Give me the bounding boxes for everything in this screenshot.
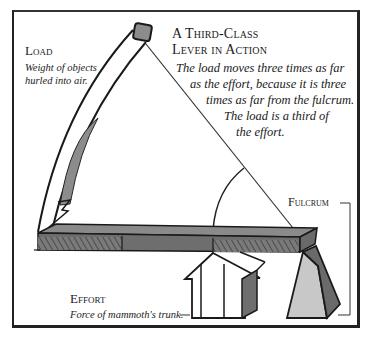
fulcrum-bracket [338,203,350,315]
effort-arc [213,168,244,230]
load-description: Weight of objects hurled into air. [25,61,97,87]
description: The load moves three times as far as the… [176,60,354,140]
effort-arrow [185,252,265,318]
load-label: Load [25,43,52,59]
description-line: The load is a third of [224,108,354,124]
fulcrum-label: Fulcrum [288,195,329,210]
description-line: as the effort, because it is three [190,76,354,92]
diagram-title: A Third-Class Lever in Action [172,26,267,58]
description-line: The load moves three times as far [176,60,354,76]
title-line-2: Lever in Action [172,42,267,58]
effort-label: Effort [70,291,105,307]
load-description-line: Weight of objects [25,61,97,74]
load-block [133,23,153,42]
lever-beam [34,224,317,253]
description-line: the effort. [236,124,354,140]
load-description-line: hurled into air. [25,74,97,87]
fulcrum-wedge [287,246,340,318]
effort-description: Force of mammoth's trunk. [70,308,183,321]
title-line-1: A Third-Class [172,26,267,42]
description-line: times as far from the fulcrum. [206,92,354,108]
